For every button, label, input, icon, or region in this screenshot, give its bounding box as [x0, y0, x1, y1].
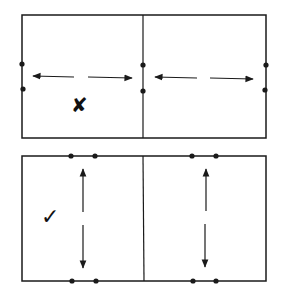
- anchor-dot: [213, 153, 218, 158]
- anchor-dot: [189, 153, 194, 158]
- anchor-dot: [92, 153, 97, 158]
- anchor-dot: [19, 61, 24, 66]
- arrow-right-icon: [210, 78, 253, 79]
- anchor-dot: [263, 62, 268, 67]
- anchor-dot: [93, 278, 98, 283]
- anchor-dot: [140, 88, 145, 93]
- check-mark-icon: ✓: [41, 206, 59, 228]
- anchor-dot: [213, 278, 218, 283]
- anchor-dot: [140, 62, 145, 67]
- anchor-dot: [262, 87, 267, 92]
- diagram-canvas: [0, 0, 283, 296]
- arrow-left-icon: [155, 77, 197, 78]
- cross-mark-icon: ✘: [71, 95, 88, 115]
- top-panel: [19, 15, 268, 138]
- anchor-dot: [69, 278, 74, 283]
- anchor-dot: [20, 86, 25, 91]
- bottom-panel-divider: [143, 156, 144, 281]
- anchor-dot: [190, 278, 195, 283]
- arrow-left-icon: [33, 76, 74, 77]
- arrow-right-icon: [88, 77, 132, 78]
- anchor-dot: [68, 153, 73, 158]
